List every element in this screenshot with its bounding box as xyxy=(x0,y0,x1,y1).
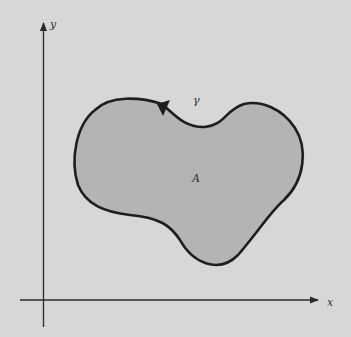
region-label-a: A xyxy=(191,172,200,185)
region-a-curve-gamma xyxy=(75,99,303,265)
y-axis-label: y xyxy=(49,18,57,31)
x-axis-label: x xyxy=(327,296,334,309)
curve-label-gamma: γ xyxy=(193,94,200,107)
diagram-canvas: y x γ A xyxy=(0,0,351,337)
